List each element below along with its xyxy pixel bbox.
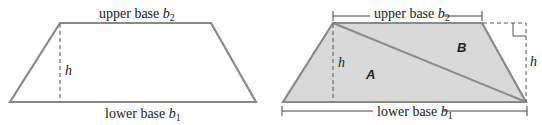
right-upper-base-label: upper base b2	[374, 6, 450, 23]
right-angle-marker	[513, 23, 526, 36]
left-trapezoid-figure: upper base b2 h lower base b1	[10, 6, 256, 123]
right-trapezoid-figure: upper base b2 lower base b1 h h A B	[282, 6, 537, 121]
region-a-label: A	[365, 67, 375, 82]
left-lower-base-label: lower base b1	[105, 106, 181, 123]
right-lower-base-label: lower base b1	[377, 104, 453, 121]
left-height-label: h	[65, 63, 72, 78]
left-trapezoid	[10, 23, 256, 102]
region-b-label: B	[457, 40, 466, 55]
right-trapezoid	[283, 23, 526, 102]
right-height-label-left: h	[338, 55, 345, 70]
trapezoid-diagram: upper base b2 h lower base b1 upper base…	[0, 0, 542, 125]
right-height-label-right: h	[530, 54, 537, 69]
left-upper-base-label: upper base b2	[99, 6, 175, 23]
